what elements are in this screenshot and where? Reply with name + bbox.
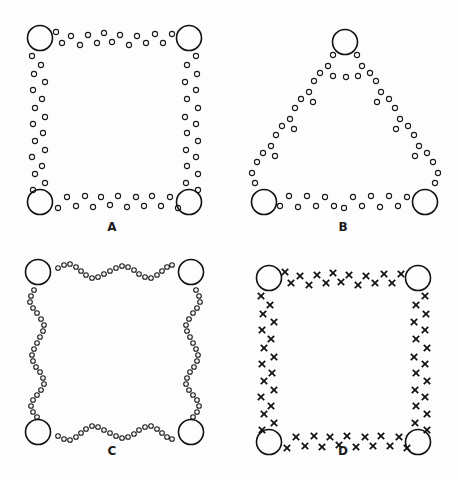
cross-node-marker [412,420,418,426]
small-node-marker [378,89,383,94]
small-node-marker [32,347,37,352]
small-node-marker [38,335,43,340]
panel-b [229,0,458,240]
small-node-marker [184,163,189,168]
small-node-marker [40,130,45,135]
small-node-marker [341,205,346,210]
small-node-marker [35,311,40,316]
small-node-marker [39,317,44,322]
small-node-marker [68,262,73,267]
small-node-marker [405,123,410,128]
small-node-marker [115,193,120,198]
small-node-marker [90,204,95,209]
small-node-marker [193,53,198,58]
small-node-marker [68,33,73,38]
small-node-marker [32,105,37,110]
small-node-marker [330,52,335,57]
small-node-marker [170,437,175,442]
small-node-marker [430,159,435,164]
small-node-marker [331,203,336,208]
small-node-marker [195,105,200,110]
small-node-marker [30,87,35,92]
small-node-marker [143,425,148,430]
small-node-marker [260,150,265,155]
small-node-marker [277,203,282,208]
small-node-marker [355,73,360,78]
small-node-marker [109,39,114,44]
small-node-marker [41,376,46,381]
small-node-marker [187,388,192,393]
small-node-marker [134,33,139,38]
small-node-marker [124,204,129,209]
cross-node-marker [424,345,430,351]
small-node-marker [295,204,300,209]
small-node-marker [117,32,122,37]
small-node-marker [29,53,34,58]
large-node-circle [177,190,202,215]
small-node-marker [268,143,273,148]
large-node-circle [179,260,204,285]
small-node-marker [42,382,47,387]
small-node-marker [74,435,79,440]
small-node-marker [120,264,125,269]
small-node-marker [64,194,69,199]
small-node-marker [90,424,95,429]
small-node-marker [132,432,137,437]
large-node-circle [28,190,53,215]
small-node-marker [31,398,36,403]
small-node-marker [279,123,284,128]
small-node-marker [170,263,175,268]
small-node-marker [79,431,84,436]
small-node-marker [149,276,154,281]
small-node-marker [39,96,44,101]
cross-node-marker [344,433,350,439]
small-node-marker [432,180,437,185]
cross-node-marker [396,434,402,440]
small-node-marker [194,288,199,293]
small-node-marker [133,194,138,199]
small-node-marker [197,404,202,409]
small-node-marker [359,203,364,208]
cross-node-marker [413,403,419,409]
cross-node-marker [267,302,273,308]
small-node-marker [313,203,318,208]
small-node-marker [249,170,254,175]
figure-canvas: A B C D [0,0,458,480]
small-node-marker [322,194,327,199]
panel-a-label: A [97,220,127,234]
small-node-marker [114,266,119,271]
small-node-marker [359,63,364,68]
small-node-marker [143,275,148,280]
small-node-marker [368,193,373,198]
cross-node-marker [271,420,277,426]
cross-node-marker [306,282,312,288]
cross-node-marker [271,354,277,360]
small-node-marker [77,42,82,47]
small-node-marker [35,393,40,398]
small-node-marker [94,40,99,45]
cross-node-marker [260,311,266,317]
panel-d-label: D [328,444,358,458]
small-node-marker [393,126,398,131]
cross-node-marker [424,411,430,417]
small-node-marker [183,180,188,185]
small-node-marker [155,427,160,432]
small-node-marker [96,425,101,430]
small-node-marker [34,365,39,370]
small-node-marker [188,370,193,375]
small-node-marker [149,193,154,198]
small-node-marker [183,147,188,152]
cross-node-marker [363,273,369,279]
small-node-marker [317,70,322,75]
small-node-marker [350,194,355,199]
small-node-marker [96,275,101,280]
small-node-marker [42,323,47,328]
small-node-marker [126,265,131,270]
small-node-marker [198,300,203,305]
small-node-marker [195,138,200,143]
cross-node-marker [422,361,428,367]
cross-node-marker [293,434,299,440]
small-node-marker [188,335,193,340]
small-node-marker [184,323,189,328]
small-node-marker [126,42,131,47]
